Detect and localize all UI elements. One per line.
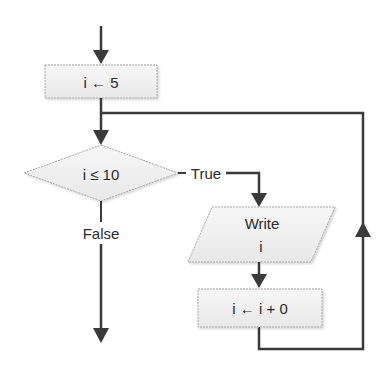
start-arrow (93, 26, 109, 64)
decision-label: i ≤ 10 (83, 167, 120, 182)
loop-up-arrowhead (355, 222, 371, 237)
flowchart-canvas (0, 0, 385, 371)
write-label-line1: Write (245, 216, 280, 231)
update-label: i ← i + 0 (232, 301, 287, 316)
init-to-decision-arrow (93, 98, 109, 145)
write-label-line2: i (259, 239, 262, 254)
false-label: False (83, 226, 120, 241)
true-label: True (191, 166, 221, 181)
init-label: i ← 5 (83, 75, 118, 90)
false-branch-connector (93, 201, 109, 343)
output-to-update-arrow (251, 262, 267, 288)
